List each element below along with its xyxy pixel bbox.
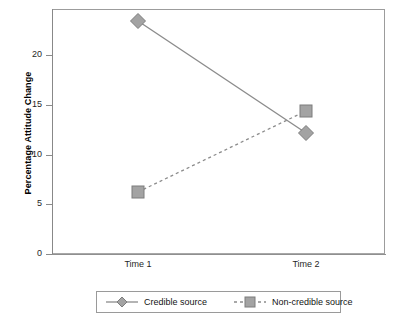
legend-item-credible-source[interactable]: Credible source xyxy=(105,295,207,309)
legend-item-non-credible-source[interactable]: Non-credible source xyxy=(233,295,353,309)
series-credible-source-line xyxy=(138,21,306,133)
legend-label-non-credible-source: Non-credible source xyxy=(272,297,353,307)
legend-swatch-square-icon xyxy=(233,295,267,309)
data-point-credible-time-2 xyxy=(299,126,314,141)
data-point-non-credible-time-2 xyxy=(300,105,312,117)
series-credible-source xyxy=(131,14,314,141)
legend: Credible source Non-credible source xyxy=(96,291,341,313)
legend-swatch-diamond-icon xyxy=(105,295,139,309)
series-layer xyxy=(0,0,397,319)
attitude-change-line-chart: Percentage Attitude Change 20 15 10 5 0 … xyxy=(0,0,397,319)
legend-label-credible-source: Credible source xyxy=(144,297,207,307)
data-point-credible-time-1 xyxy=(131,14,146,29)
data-point-non-credible-time-1 xyxy=(132,186,144,198)
series-non-credible-source-line xyxy=(138,111,306,192)
